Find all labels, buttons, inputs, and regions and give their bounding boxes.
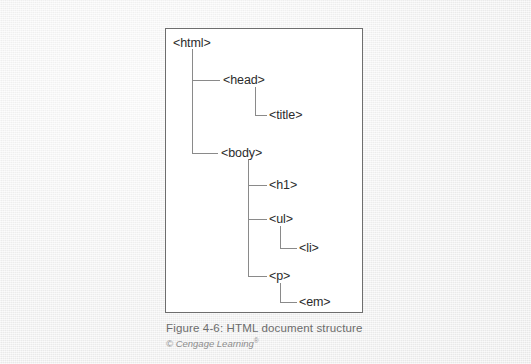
tree-node-p: <p>: [269, 269, 290, 283]
tree-node-ul: <ul>: [269, 212, 293, 226]
figure-caption: Figure 4-6: HTML document structure © Ce…: [166, 322, 466, 349]
figure-frame: <html> <head> <title> <body> <h1> <ul> <…: [165, 28, 363, 313]
tree-node-h1: <h1>: [269, 178, 297, 192]
tree-node-li: <li>: [299, 241, 319, 255]
connector-head-trunk: [255, 87, 256, 115]
caption-credit-text: © Cengage Learning: [166, 338, 254, 349]
tree-node-title: <title>: [269, 108, 302, 122]
connector-head-to-title: [255, 115, 267, 116]
tree-node-html: <html>: [173, 36, 211, 50]
registered-trademark-icon: ®: [254, 337, 259, 344]
connector-body-trunk: [248, 159, 249, 277]
connector-html-to-head: [192, 80, 220, 81]
tree-node-body: <body>: [221, 146, 262, 160]
connector-html-to-body: [192, 153, 218, 154]
connector-p-trunk: [280, 283, 281, 302]
tree-node-em: <em>: [299, 295, 331, 309]
connector-body-to-p: [248, 276, 267, 277]
connector-p-to-em: [280, 302, 297, 303]
connector-body-to-ul: [248, 219, 267, 220]
caption-title: Figure 4-6: HTML document structure: [166, 322, 466, 334]
connector-body-to-h1: [248, 185, 267, 186]
tree-node-head: <head>: [223, 73, 265, 87]
caption-credit: © Cengage Learning®: [166, 337, 466, 349]
connector-ul-trunk: [280, 226, 281, 248]
connector-ul-to-li: [280, 248, 297, 249]
connector-html-trunk: [192, 49, 193, 154]
